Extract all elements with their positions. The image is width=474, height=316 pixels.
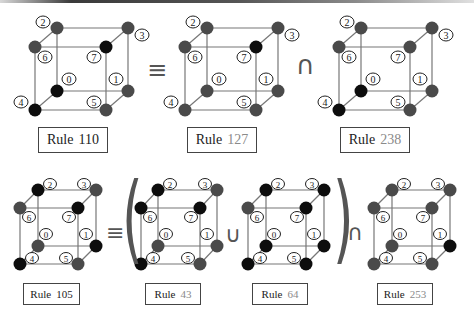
- vertex-3-gray: [444, 184, 457, 197]
- vertex-1-gray: [122, 85, 135, 98]
- vertex-5-gray: [194, 258, 207, 271]
- cube-rule-238: 01234567: [318, 16, 453, 117]
- left-parenthesis: (: [122, 170, 143, 266]
- vertex-label: 7: [242, 52, 247, 63]
- label-number: 238: [380, 132, 401, 148]
- vertex-3-black: [318, 184, 331, 197]
- vertex-label: 3: [203, 180, 208, 190]
- vertex-7-gray: [404, 41, 417, 54]
- vertex-3-gray: [211, 184, 224, 197]
- vertex-label: 4: [30, 254, 35, 264]
- vertex-2-gray: [51, 22, 64, 35]
- vertex-label: 1: [418, 74, 423, 85]
- label-rule-64: Rule64: [252, 283, 308, 305]
- union-operator: ∪: [225, 224, 241, 246]
- vertex-label: 2: [41, 17, 46, 28]
- vertex-label: 2: [191, 17, 196, 28]
- cube-rule-43: 01234567: [135, 179, 224, 271]
- vertex-label: 7: [421, 213, 426, 223]
- vertex-1-black: [444, 240, 457, 253]
- cube-rule-105: 01234567: [14, 179, 103, 271]
- vertex-label: 3: [444, 30, 449, 41]
- vertex-3-gray: [272, 22, 285, 35]
- right-parenthesis: ): [333, 170, 354, 266]
- vertex-label: 6: [347, 52, 352, 63]
- vertex-5-black: [300, 258, 313, 271]
- vertex-label: 0: [398, 230, 403, 240]
- vertex-4-gray: [368, 258, 381, 271]
- vertex-3-gray: [426, 22, 439, 35]
- vertex-label: 0: [217, 74, 222, 85]
- vertex-3-gray: [90, 184, 103, 197]
- label-number: 253: [410, 288, 427, 300]
- vertex-2-gray: [355, 22, 368, 35]
- vertex-6-gray: [29, 41, 42, 54]
- label-word: Rule: [30, 288, 51, 300]
- vertex-1-gray: [211, 240, 224, 253]
- label-number: 64: [287, 288, 298, 300]
- boolean-cube-diagram: 0123456701234567012345670123456701234567…: [0, 0, 474, 316]
- vertex-label: 6: [381, 213, 386, 223]
- vertex-label: 1: [438, 230, 443, 240]
- vertex-label: 2: [168, 180, 173, 190]
- vertex-label: 6: [43, 52, 48, 63]
- vertex-5-gray: [72, 258, 85, 271]
- cube-rule-110: 01234567: [14, 16, 149, 117]
- vertex-label: 5: [186, 254, 191, 264]
- vertex-label: 1: [312, 230, 317, 240]
- vertex-label: 5: [418, 254, 423, 264]
- label-rule-110: Rule110: [38, 127, 108, 153]
- vertex-label: 1: [264, 74, 269, 85]
- vertex-label: 0: [67, 74, 72, 85]
- vertex-label: 5: [64, 254, 69, 264]
- intersection-operator: ∩: [347, 222, 363, 244]
- vertex-label: 4: [169, 97, 174, 108]
- vertex-label: 4: [151, 254, 156, 264]
- label-rule-238: Rule238: [340, 127, 410, 153]
- vertex-0-black: [51, 85, 64, 98]
- vertex-5-gray: [426, 258, 439, 271]
- intersection-operator: ∩: [296, 52, 315, 78]
- vertex-4-black: [333, 104, 346, 117]
- vertex-label: 5: [242, 97, 247, 108]
- vertex-6-gray: [179, 41, 192, 54]
- vertex-label: 5: [292, 254, 297, 264]
- vertex-0-gray: [152, 240, 165, 253]
- vertex-label: 3: [436, 180, 441, 190]
- vertex-label: 5: [396, 97, 401, 108]
- vertex-label: 3: [82, 180, 87, 190]
- vertex-label: 4: [323, 97, 328, 108]
- vertex-label: 4: [19, 97, 24, 108]
- label-rule-105: Rule105: [23, 283, 80, 305]
- label-number: 105: [56, 288, 73, 300]
- vertex-label: 3: [310, 180, 315, 190]
- cube-rule-127: 01234567: [164, 16, 299, 117]
- label-rule-43: Rule43: [145, 283, 201, 305]
- vertex-label: 3: [140, 30, 145, 41]
- vertex-label: 7: [92, 52, 97, 63]
- vertex-4-black: [14, 258, 27, 271]
- label-rule-127: Rule127: [187, 127, 257, 153]
- vertex-label: 0: [371, 74, 376, 85]
- vertex-label: 5: [92, 97, 97, 108]
- vertex-2-gray: [386, 184, 399, 197]
- vertex-0-black: [355, 85, 368, 98]
- label-number: 110: [78, 132, 98, 148]
- label-number: 127: [227, 132, 248, 148]
- vertex-label: 6: [148, 213, 153, 223]
- vertex-label: 7: [67, 213, 72, 223]
- vertex-label: 2: [276, 180, 281, 190]
- vertex-4-gray: [179, 104, 192, 117]
- vertex-label: 7: [295, 213, 300, 223]
- vertex-label: 0: [272, 230, 277, 240]
- vertex-5-gray: [100, 104, 113, 117]
- vertex-5-gray: [250, 104, 263, 117]
- vertex-4-black: [242, 258, 255, 271]
- equivalence-operator: ≡: [147, 58, 167, 82]
- label-word: Rule: [384, 288, 405, 300]
- vertex-2-black: [32, 184, 45, 197]
- label-number: 43: [180, 288, 191, 300]
- vertex-0-gray: [201, 85, 214, 98]
- vertex-label: 6: [255, 213, 260, 223]
- vertex-0-gray: [386, 240, 399, 253]
